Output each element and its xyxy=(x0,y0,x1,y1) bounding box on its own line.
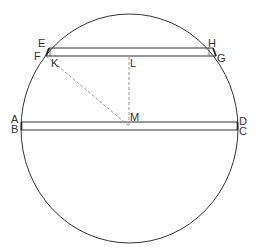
label-B: B xyxy=(11,123,18,135)
label-E: E xyxy=(38,37,45,49)
label-K: K xyxy=(51,57,59,69)
label-G: G xyxy=(217,52,226,64)
label-L: L xyxy=(130,57,136,69)
label-M: M xyxy=(130,111,139,123)
label-C: C xyxy=(239,125,247,137)
label-F: F xyxy=(34,50,41,62)
circle-chord-diagram: E F K H G L M A B D C xyxy=(0,0,259,250)
label-H: H xyxy=(208,37,216,49)
